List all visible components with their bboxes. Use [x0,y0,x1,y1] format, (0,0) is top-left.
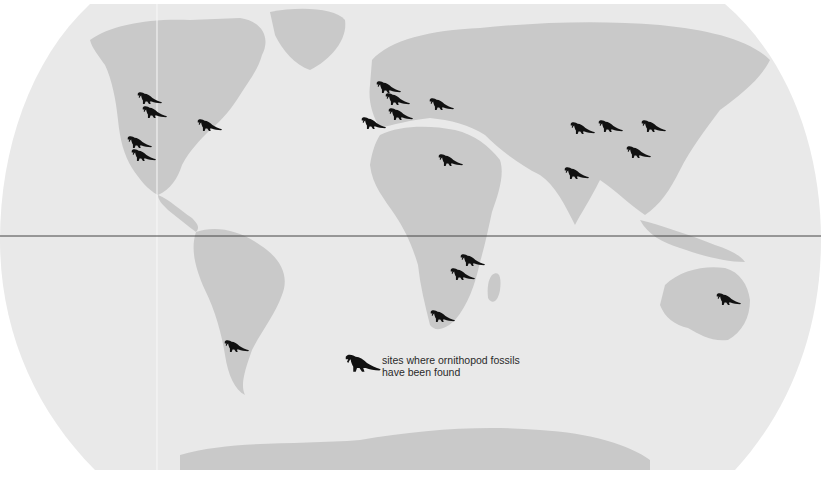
legend: sites where ornithopod fossils have been… [382,354,520,378]
legend-line-2: have been found [382,366,520,378]
world-map [0,0,821,481]
legend-line-1: sites where ornithopod fossils [382,354,520,366]
